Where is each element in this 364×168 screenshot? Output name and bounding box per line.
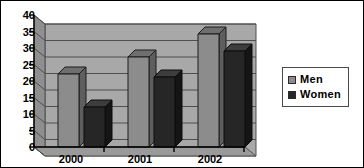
legend-item-women: Women xyxy=(288,87,341,102)
legend-label-men: Men xyxy=(300,74,323,85)
chart-screenshot: 40 35 30 25 20 15 10 5 0 2000 2001 2002 … xyxy=(0,0,364,168)
x-tick-label-2002: 2002 xyxy=(198,153,222,165)
x-tick-label-2001: 2001 xyxy=(128,153,152,165)
legend-swatch-women-icon xyxy=(288,91,296,99)
legend-label-women: Women xyxy=(300,89,341,100)
legend-swatch-men-icon xyxy=(288,76,296,84)
bar-chart: 40 35 30 25 20 15 10 5 0 2000 2001 2002 … xyxy=(1,1,364,168)
chart-legend: Men Women xyxy=(282,67,349,107)
x-tick-label-2000: 2000 xyxy=(59,153,83,165)
legend-item-men: Men xyxy=(288,72,341,87)
